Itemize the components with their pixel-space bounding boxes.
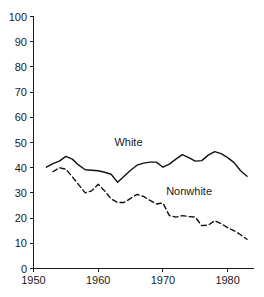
x-tick-label: 1980 (215, 274, 239, 286)
y-tick-label: 30 (15, 187, 27, 199)
x-tick-label: 1970 (151, 274, 175, 286)
y-tick-label: 70 (15, 86, 27, 98)
x-tick-label: 1960 (86, 274, 110, 286)
series-line-nonwhite (53, 168, 247, 240)
series-lines (46, 152, 247, 240)
series-label-white: White (114, 136, 142, 148)
chart-page: 0102030405060708090100 1950196019701980 … (0, 0, 264, 297)
series-line-white (46, 152, 247, 183)
line-chart: 0102030405060708090100 1950196019701980 … (0, 0, 264, 297)
y-tick-label: 10 (15, 237, 27, 249)
y-tick-label: 80 (15, 61, 27, 73)
y-tick-label: 50 (15, 137, 27, 149)
y-axis-ticks: 0102030405060708090100 (9, 11, 34, 275)
y-tick-label: 40 (15, 162, 27, 174)
y-tick-label: 60 (15, 111, 27, 123)
y-tick-label: 100 (9, 11, 27, 23)
x-tick-label: 1950 (21, 274, 45, 286)
series-label-nonwhite: Nonwhite (166, 185, 212, 197)
y-tick-label: 90 (15, 36, 27, 48)
y-tick-label: 20 (15, 212, 27, 224)
x-axis-ticks: 1950196019701980 (21, 269, 240, 286)
